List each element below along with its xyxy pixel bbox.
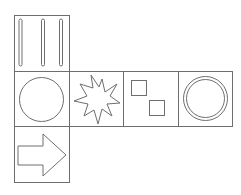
two-squares-icon <box>132 81 165 116</box>
circle-icon <box>20 78 64 122</box>
double-circle-icon <box>184 77 228 121</box>
right-arrow-icon <box>18 134 66 176</box>
symbols-layer <box>0 0 241 195</box>
three-bars-icon <box>19 19 63 66</box>
starburst-icon <box>74 75 120 124</box>
